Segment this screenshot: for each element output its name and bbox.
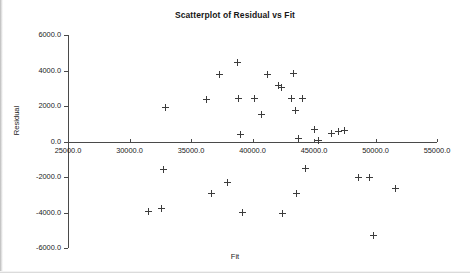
data-point <box>237 131 244 138</box>
y-tick-mark <box>64 35 68 36</box>
y-tick-label: 6000.0 <box>15 30 61 39</box>
y-tick-label: -2000.0 <box>15 172 61 181</box>
data-point <box>335 128 342 135</box>
data-point <box>302 165 309 172</box>
data-point <box>158 205 165 212</box>
data-point <box>258 111 265 118</box>
x-tick-mark <box>253 139 254 142</box>
y-tick-label: 2000.0 <box>15 101 61 110</box>
y-tick-mark <box>64 177 68 178</box>
data-point <box>235 95 242 102</box>
y-axis-label: Residual <box>12 91 21 151</box>
data-point <box>203 96 210 103</box>
data-point <box>292 107 299 114</box>
data-point <box>264 71 271 78</box>
x-tick-mark <box>376 139 377 142</box>
data-point <box>355 174 362 181</box>
data-point <box>160 166 167 173</box>
data-point <box>216 71 223 78</box>
data-point <box>251 95 258 102</box>
x-tick-label: 55000.0 <box>407 146 467 155</box>
x-tick-mark <box>437 139 438 142</box>
data-point <box>290 70 297 77</box>
y-tick-mark <box>64 106 68 107</box>
data-point <box>311 126 318 133</box>
data-point <box>366 174 373 181</box>
x-tick-mark <box>68 139 69 142</box>
data-point <box>293 190 300 197</box>
x-tick-label: 45000.0 <box>284 146 344 155</box>
data-point <box>145 208 152 215</box>
data-point <box>392 185 399 192</box>
y-tick-mark <box>64 71 68 72</box>
x-tick-mark <box>191 139 192 142</box>
x-tick-mark <box>130 139 131 142</box>
x-tick-label: 25000.0 <box>38 146 98 155</box>
data-point <box>224 179 231 186</box>
x-tick-label: 40000.0 <box>223 146 283 155</box>
data-point <box>239 209 246 216</box>
y-axis-line <box>68 35 69 248</box>
y-tick-label: 4000.0 <box>15 66 61 75</box>
y-tick-label: 0.0 <box>15 137 61 146</box>
y-tick-mark <box>64 213 68 214</box>
x-axis-label: Fit <box>0 252 470 261</box>
x-axis-line <box>68 142 437 143</box>
plot-area: 6000.04000.02000.00.0-2000.0-4000.0-6000… <box>0 0 470 273</box>
data-point <box>299 95 306 102</box>
data-point <box>278 84 285 91</box>
data-point <box>295 135 302 142</box>
y-tick-label: -6000.0 <box>15 243 61 252</box>
y-tick-mark <box>64 142 68 143</box>
data-point <box>234 59 241 66</box>
x-tick-label: 35000.0 <box>161 146 221 155</box>
x-tick-label: 30000.0 <box>100 146 160 155</box>
scatterplot-figure: Scatterplot of Residual vs Fit 6000.0400… <box>0 0 470 273</box>
data-point <box>370 232 377 239</box>
x-tick-label: 50000.0 <box>346 146 406 155</box>
data-point <box>315 137 322 144</box>
y-tick-mark <box>64 248 68 249</box>
data-point <box>208 190 215 197</box>
data-point <box>162 104 169 111</box>
data-point <box>279 210 286 217</box>
data-point <box>288 95 295 102</box>
y-tick-label: -4000.0 <box>15 208 61 217</box>
